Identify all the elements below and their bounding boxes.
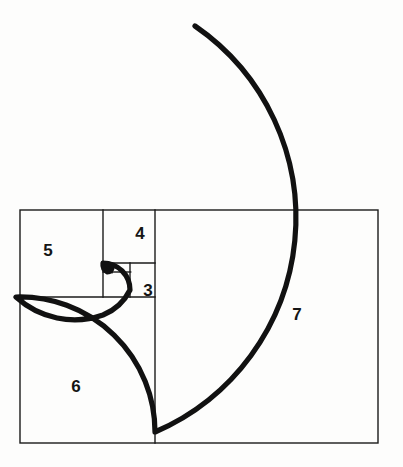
label-4: 4 — [135, 224, 145, 243]
label-6: 6 — [71, 377, 80, 396]
fibonacci-spiral-canvas: 3 4 5 6 7 — [0, 0, 403, 467]
label-3: 3 — [143, 281, 152, 300]
label-7: 7 — [292, 305, 301, 324]
fibonacci-spiral-figure: 3 4 5 6 7 — [0, 0, 403, 467]
label-5: 5 — [43, 241, 52, 260]
golden-spiral-curve — [16, 26, 296, 432]
